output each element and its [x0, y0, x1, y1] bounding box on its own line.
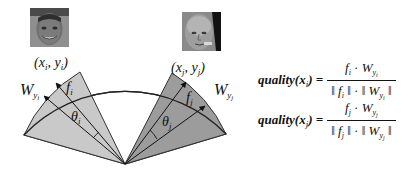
formula-quality-j-fraction: fj · Wyj ‖ fj ‖ · ‖ Wyj ‖	[327, 100, 395, 141]
formula-quality-i: quality(xi) = fi · Wyi ‖ fi ‖ · ‖ Wyi ‖	[258, 60, 396, 101]
face-image-j	[182, 12, 221, 51]
formula-quality-j-lhs: quality(xj) =	[258, 112, 323, 129]
formula-quality-i-denominator: ‖ fi ‖ · ‖ Wyi ‖	[327, 80, 395, 101]
label-f-i: fi	[66, 80, 73, 97]
face-image-i	[30, 8, 69, 47]
formula-quality-j-denominator: ‖ fj ‖ · ‖ Wyj ‖	[327, 120, 395, 141]
label-point-xi-yi: (xi, yi)	[34, 56, 68, 72]
formula-quality-i-numerator: fi · Wyi	[341, 60, 382, 80]
label-point-xj-yj: (xj, yj)	[171, 61, 205, 77]
label-f-j: fj	[186, 90, 193, 107]
formula-quality-i-fraction: fi · Wyi ‖ fi ‖ · ‖ Wyi ‖	[327, 60, 395, 101]
label-W-yj: Wyj	[214, 82, 233, 102]
formula-quality-j-numerator: fj · Wyj	[341, 100, 382, 120]
label-W-yi: Wyi	[20, 82, 39, 102]
label-theta-i: θi	[71, 110, 80, 126]
formula-quality-j: quality(xj) = fj · Wyj ‖ fj ‖ · ‖ Wyj ‖	[258, 100, 396, 141]
formula-quality-i-lhs: quality(xi) =	[258, 72, 323, 89]
label-theta-j: θj	[162, 115, 171, 131]
